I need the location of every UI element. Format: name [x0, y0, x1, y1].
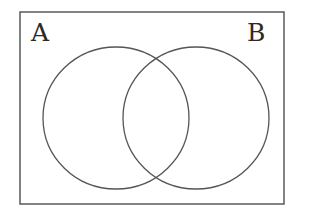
set-a-circle [43, 47, 189, 189]
set-b-label: B [247, 20, 265, 45]
set-b-circle [123, 47, 269, 189]
set-a-label: A [31, 20, 49, 45]
